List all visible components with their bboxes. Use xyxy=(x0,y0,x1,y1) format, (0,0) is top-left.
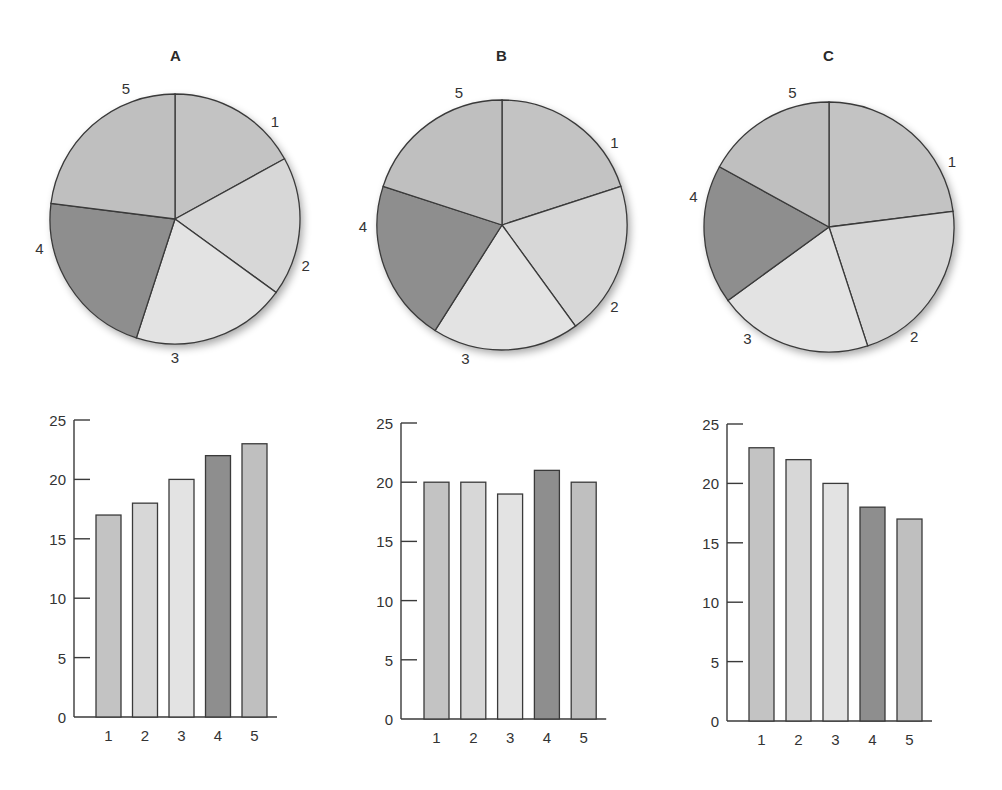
y-tick-label: 25 xyxy=(376,415,393,432)
pie-label-2: 2 xyxy=(910,328,918,345)
y-tick-label: 15 xyxy=(702,535,719,552)
bar-4 xyxy=(534,470,559,719)
y-tick-label: 5 xyxy=(385,652,393,669)
bar-5 xyxy=(571,482,596,719)
x-tick-label: 1 xyxy=(104,727,112,744)
y-tick-label: 0 xyxy=(385,711,393,728)
bar-3 xyxy=(823,483,848,721)
pie-chart-c: 12345 xyxy=(689,84,956,352)
y-tick-label: 10 xyxy=(49,590,66,607)
pie-label-4: 4 xyxy=(689,188,697,205)
pie-label-5: 5 xyxy=(455,84,463,101)
y-tick-label: 20 xyxy=(376,474,393,491)
x-tick-label: 4 xyxy=(868,731,876,748)
x-tick-label: 3 xyxy=(177,727,185,744)
y-tick-label: 5 xyxy=(58,650,66,667)
y-tick-label: 15 xyxy=(376,533,393,550)
y-tick-label: 5 xyxy=(711,654,719,671)
bar-4 xyxy=(206,456,231,717)
bar-1 xyxy=(96,515,121,717)
y-tick-label: 25 xyxy=(702,416,719,433)
pie-label-1: 1 xyxy=(271,113,279,130)
pie-label-2: 2 xyxy=(302,257,310,274)
bar-1 xyxy=(424,482,449,719)
x-tick-label: 5 xyxy=(905,731,913,748)
bar-5 xyxy=(897,519,922,721)
bar-chart-a: 051015202512345 xyxy=(49,412,277,744)
bar-3 xyxy=(169,479,194,717)
y-tick-label: 20 xyxy=(49,471,66,488)
x-tick-label: 1 xyxy=(757,731,765,748)
x-tick-label: 4 xyxy=(214,727,222,744)
y-tick-label: 20 xyxy=(702,475,719,492)
bar-chart-c: 051015202512345 xyxy=(702,416,932,748)
bar-5 xyxy=(242,444,267,717)
pie-label-3: 3 xyxy=(171,349,179,366)
pie-slice-1 xyxy=(829,102,953,227)
bar-2 xyxy=(133,503,158,717)
y-tick-label: 10 xyxy=(376,593,393,610)
x-tick-label: 2 xyxy=(794,731,802,748)
bar-4 xyxy=(860,507,885,721)
x-tick-label: 4 xyxy=(543,729,551,746)
x-tick-label: 5 xyxy=(580,729,588,746)
bar-2 xyxy=(786,460,811,721)
bar-chart-b: 051015202512345 xyxy=(376,415,606,746)
pie-label-2: 2 xyxy=(610,298,618,315)
bar-3 xyxy=(498,494,523,719)
pie-label-4: 4 xyxy=(359,218,367,235)
bar-2 xyxy=(461,482,486,719)
pie-label-5: 5 xyxy=(122,80,130,97)
y-tick-label: 0 xyxy=(711,713,719,730)
pie-label-5: 5 xyxy=(788,84,796,101)
x-tick-label: 5 xyxy=(250,727,258,744)
x-tick-label: 3 xyxy=(831,731,839,748)
pie-label-4: 4 xyxy=(35,240,43,257)
pie-chart-a: 12345 xyxy=(35,80,310,366)
pie-label-1: 1 xyxy=(610,134,618,151)
pie-label-3: 3 xyxy=(461,350,469,367)
x-tick-label: 1 xyxy=(432,729,440,746)
pie-label-1: 1 xyxy=(948,153,956,170)
y-tick-label: 25 xyxy=(49,412,66,429)
y-tick-label: 10 xyxy=(702,594,719,611)
bar-1 xyxy=(749,448,774,721)
x-tick-label: 2 xyxy=(469,729,477,746)
pie-chart-b: 12345 xyxy=(359,84,627,367)
y-tick-label: 0 xyxy=(58,709,66,726)
y-tick-label: 15 xyxy=(49,531,66,548)
pie-slice-5 xyxy=(51,94,175,219)
x-tick-label: 3 xyxy=(506,729,514,746)
chart-canvas: 12345 12345 12345 051015202512345 051015… xyxy=(0,0,1002,790)
pie-label-3: 3 xyxy=(743,330,751,347)
x-tick-label: 2 xyxy=(141,727,149,744)
